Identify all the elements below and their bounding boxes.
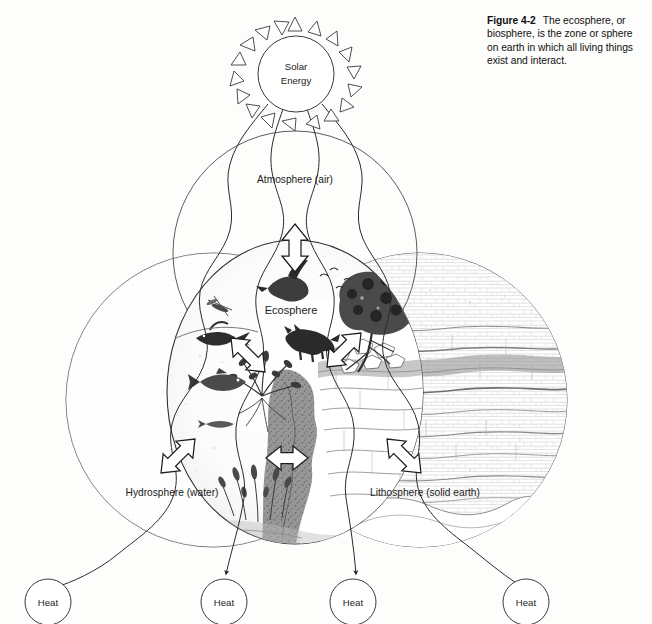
- solar-energy-label-line2: Energy: [281, 75, 312, 86]
- heat-output-4: Heat: [503, 579, 549, 624]
- solar-energy-label-line1: Solar: [285, 61, 308, 72]
- heat-output-2: Heat: [201, 579, 247, 624]
- heat-label: Heat: [38, 597, 59, 608]
- heat-label: Heat: [516, 597, 537, 608]
- heat-output-3: Heat: [330, 579, 376, 624]
- sun-disc: [258, 36, 334, 112]
- figure-page: Solar Energy Atmosphere (air) H: [0, 0, 652, 624]
- atmosphere-label: Atmosphere (air): [257, 174, 333, 185]
- solar-energy-symbol: Solar Energy: [230, 17, 362, 131]
- figure-number: Figure 4-2: [487, 15, 536, 26]
- heat-label: Heat: [343, 597, 364, 608]
- ecosphere-diagram: Solar Energy Atmosphere (air) H: [0, 0, 652, 624]
- hydrosphere-label: Hydrosphere (water): [126, 487, 219, 498]
- heat-output-1: Heat: [25, 579, 71, 624]
- lithosphere-label: Lithosphere (solid earth): [370, 487, 480, 498]
- figure-caption: Figure 4-2The ecosphere, or biosphere, i…: [487, 14, 639, 68]
- heat-label: Heat: [214, 597, 235, 608]
- ecosphere-label: Ecosphere: [265, 304, 318, 316]
